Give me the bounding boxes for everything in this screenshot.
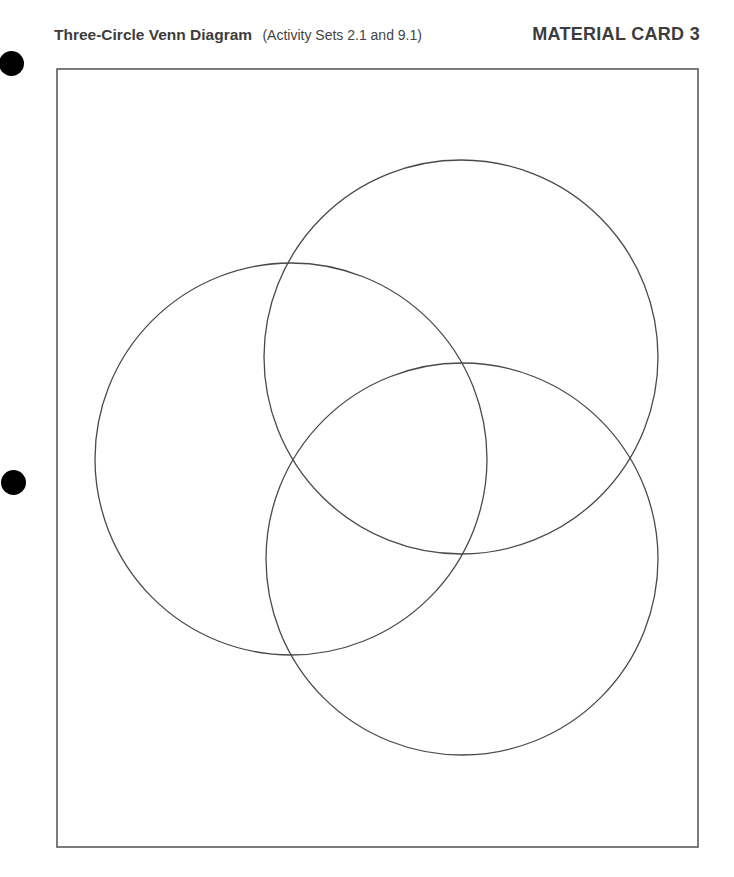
bottom-circle bbox=[266, 363, 658, 755]
venn-circles bbox=[95, 160, 658, 755]
diagram-frame bbox=[57, 69, 698, 847]
venn-diagram bbox=[0, 0, 734, 877]
top-right-circle bbox=[264, 160, 658, 554]
left-circle bbox=[95, 263, 487, 655]
